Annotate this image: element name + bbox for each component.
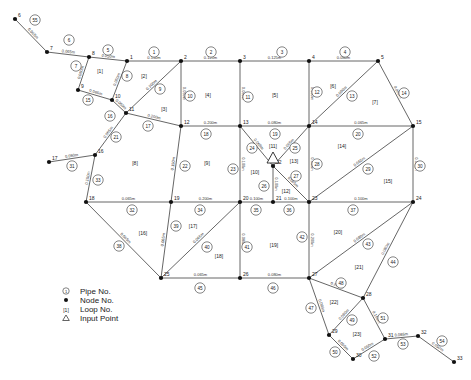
loop-number: [20] xyxy=(334,229,343,235)
pipe-diameter-label: 0.100m xyxy=(284,196,298,201)
pipe-number: 20 xyxy=(355,132,361,137)
pipe-diameter-label: 0.100m xyxy=(250,196,264,201)
pipe-number-35: 35 xyxy=(251,205,261,215)
pipe-number-4: 4 xyxy=(340,47,350,57)
pipe-number-48: 48 xyxy=(336,278,346,288)
node-number: 32 xyxy=(421,329,427,335)
node-31: 31 xyxy=(383,332,394,342)
legend-item-loop: [1] Loop No. xyxy=(63,305,112,314)
pipe-number-50: 50 xyxy=(330,347,340,357)
node-20: 20 xyxy=(238,195,249,205)
node-number: 17 xyxy=(52,155,58,161)
pipe-number-52: 52 xyxy=(369,351,379,361)
node-dot-icon xyxy=(110,98,114,102)
node-number: 13 xyxy=(243,119,249,125)
node-dot-icon xyxy=(124,111,128,115)
node-3: 3 xyxy=(238,54,246,64)
pipe-number-8: 8 xyxy=(122,71,132,81)
node-number: 14 xyxy=(312,119,318,125)
pipe-number-14: 14 xyxy=(399,88,409,98)
node-number: 27 xyxy=(312,271,318,277)
pipe-number: 3 xyxy=(281,50,284,55)
node-number: 19 xyxy=(174,195,180,201)
pipe-number: 22 xyxy=(182,164,188,169)
pipe-number: 6 xyxy=(68,38,71,43)
pipe-diameter-label: 0.200m xyxy=(204,120,218,125)
node-dot-icon xyxy=(238,124,242,128)
node-2: 2 xyxy=(179,54,187,64)
node-number: 11 xyxy=(129,106,134,112)
node-dot-icon xyxy=(64,298,68,302)
pipe-number-31: 31 xyxy=(67,161,77,171)
pipe-diameter-label: 0.065m xyxy=(394,331,408,337)
pipe-number: 26 xyxy=(261,184,267,189)
loop-number: [13] xyxy=(290,158,299,164)
pipe-diameter-label: 0.200m xyxy=(310,233,315,247)
node-dot-icon xyxy=(411,200,415,204)
node-dot-icon xyxy=(452,360,456,364)
node-29: 29 xyxy=(327,328,338,338)
pipe-number-43: 43 xyxy=(363,239,373,249)
node-number: 3 xyxy=(243,54,246,60)
pipe-diameter-label: 0.200m xyxy=(199,196,213,201)
legend-item-input: Input Point xyxy=(63,314,119,323)
pipe-number-6: 6 xyxy=(64,35,74,45)
pipe-number-13: 13 xyxy=(347,91,357,101)
pipe-network-diagram: 0.150m0.125m0.125m0.080m0.050m0.065m0.05… xyxy=(0,0,471,380)
pipe-number-26: 26 xyxy=(259,181,269,191)
pipe-number: 33 xyxy=(95,178,101,183)
node-16: 16 xyxy=(93,148,104,158)
node-dot-icon xyxy=(351,357,355,361)
pipe-number: 4 xyxy=(344,50,347,55)
node-33: 33 xyxy=(452,355,463,365)
node-number: 2 xyxy=(184,54,187,60)
node-number: 5 xyxy=(381,54,384,60)
pipe-number: 37 xyxy=(350,208,356,213)
node-6: 6 xyxy=(13,12,21,22)
pipe-number: 46 xyxy=(270,286,276,291)
pipe-number: 38 xyxy=(116,244,122,249)
loop-number: [19] xyxy=(270,242,279,248)
node-dot-icon xyxy=(307,124,311,128)
legend-label: Loop No. xyxy=(80,305,112,314)
pipe-number: 14 xyxy=(401,91,407,96)
legend-label: Pipe No. xyxy=(80,287,111,296)
pipe-number-36: 36 xyxy=(284,205,294,215)
pipe-number: 25 xyxy=(292,146,298,151)
node-18: 18 xyxy=(84,195,95,205)
pipe-number-17: 17 xyxy=(143,121,153,131)
node-13: 13 xyxy=(238,119,249,129)
pipe-number-49: 49 xyxy=(347,315,357,325)
node-number: 33 xyxy=(457,355,463,361)
node-dot-icon xyxy=(179,59,183,63)
pipe-number-30: 30 xyxy=(415,161,425,171)
loop-number: [5] xyxy=(272,92,278,98)
node-dot-icon xyxy=(179,124,183,128)
pipe-diameter-label: 0.080m xyxy=(268,120,282,125)
loop-number: [22] xyxy=(330,299,339,305)
pipe-number-55: 55 xyxy=(30,15,40,25)
loop-number: [3] xyxy=(161,106,167,112)
pipe-number: 40 xyxy=(204,245,210,250)
pipe-number: 13 xyxy=(349,94,355,99)
pipe-diameter-label: 0.100m xyxy=(354,196,368,201)
pipe-number-22: 22 xyxy=(180,161,190,171)
pipe-number-44: 44 xyxy=(388,257,398,267)
pipe-number: 28 xyxy=(314,162,320,167)
pipe-number-42: 42 xyxy=(297,232,307,242)
node-number: 31 xyxy=(388,332,394,338)
pipe-number-9: 9 xyxy=(155,84,165,94)
node-dot-icon xyxy=(307,200,311,204)
node-dot-icon xyxy=(76,88,80,92)
loop-number: [15] xyxy=(384,178,393,184)
network-canvas: 0.150m0.125m0.125m0.080m0.050m0.065m0.05… xyxy=(0,0,471,380)
node-14: 14 xyxy=(307,119,318,129)
node-21: 21 xyxy=(271,195,282,205)
pipe-number-25: 25 xyxy=(290,143,300,153)
pipe-diameter-label: 0.065m xyxy=(354,120,368,125)
pipe-number: 19 xyxy=(272,132,278,137)
node-dot-icon xyxy=(159,276,163,280)
pipe-number: 36 xyxy=(286,208,292,213)
node-dot-icon xyxy=(376,59,380,63)
pipe-number: 54 xyxy=(439,339,445,344)
